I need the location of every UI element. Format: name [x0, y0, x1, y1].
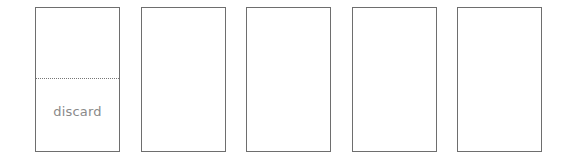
fold-line — [36, 78, 119, 79]
discard-label: discard — [36, 104, 119, 119]
card-2 — [141, 7, 226, 152]
card-1: discard — [35, 7, 120, 152]
card-4 — [352, 7, 437, 152]
card-5 — [457, 7, 542, 152]
card-3 — [246, 7, 331, 152]
